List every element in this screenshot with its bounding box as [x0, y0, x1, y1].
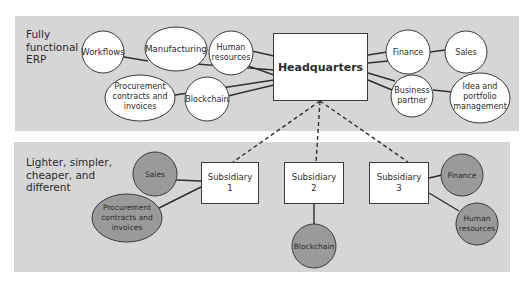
headquarters-label: Headquarters [278, 61, 364, 74]
svg-text:invoices: invoices [124, 102, 157, 111]
svg-text:contracts and: contracts and [101, 213, 153, 222]
svg-text:contracts and: contracts and [113, 92, 168, 101]
subsidiary-2-node: Subsidiary 2 [285, 163, 344, 204]
svg-text:Procurement: Procurement [103, 203, 151, 212]
svg-text:Subsidiary: Subsidiary [377, 172, 421, 182]
svg-text:Subsidiary: Subsidiary [292, 172, 336, 182]
erp-module-business-partner: Business partner [391, 75, 433, 117]
svg-text:Business: Business [394, 86, 429, 95]
erp-module-blockchain: Blockchain [185, 77, 229, 121]
subsidiary-3-finance: Finance [441, 154, 483, 196]
svg-text:Finance: Finance [393, 48, 424, 57]
erp-module-sales: Sales [445, 31, 487, 73]
svg-text:portfolio: portfolio [463, 92, 497, 101]
svg-text:1: 1 [227, 183, 232, 193]
svg-text:Human: Human [463, 214, 490, 223]
hq-subsidiary-links [233, 101, 408, 162]
subsidiary-3-human-resources: Human resources [456, 203, 498, 245]
subsidiary-1-node: Subsidiary 1 [202, 163, 259, 204]
erp-module-finance: Finance [386, 30, 430, 74]
svg-text:partner: partner [397, 96, 427, 105]
svg-text:3: 3 [396, 183, 401, 193]
svg-text:Sales: Sales [145, 170, 165, 179]
svg-text:Manufacturing: Manufacturing [145, 44, 207, 54]
erp-module-procurement: Procurement contracts and invoices [105, 75, 175, 121]
svg-text:Procurement: Procurement [114, 82, 165, 91]
erp-module-idea-portfolio: Idea and portfolio management [450, 73, 510, 123]
subsidiary-3-node: Subsidiary 3 [370, 163, 429, 204]
subsidiary-1-procurement: Procurement contracts and invoices [92, 194, 162, 242]
subsidiary-1-sales: Sales [133, 152, 177, 196]
svg-text:Blockchain: Blockchain [185, 95, 228, 104]
svg-text:Finance: Finance [448, 171, 477, 180]
svg-text:invoices: invoices [112, 223, 143, 232]
erp-diagram: Headquarters Workflows Manufacturing Hum… [0, 0, 531, 282]
headquarters-node: Headquarters [274, 34, 368, 101]
subsidiary-2-blockchain: Blockchain [292, 224, 336, 268]
svg-text:Subsidiary: Subsidiary [208, 172, 252, 182]
erp-module-workflows: Workflows [81, 31, 125, 73]
svg-text:Sales: Sales [455, 48, 476, 57]
erp-module-human-resources: Human resources [209, 31, 253, 75]
svg-text:resources: resources [459, 224, 495, 233]
svg-text:2: 2 [311, 183, 316, 193]
svg-text:Human: Human [217, 43, 246, 52]
svg-text:management: management [453, 102, 507, 111]
svg-text:Blockchain: Blockchain [294, 242, 335, 251]
svg-text:Idea and: Idea and [463, 82, 498, 91]
svg-text:resources: resources [212, 53, 251, 62]
erp-module-manufacturing: Manufacturing [145, 27, 207, 71]
svg-text:Workflows: Workflows [81, 47, 125, 57]
